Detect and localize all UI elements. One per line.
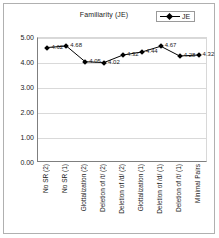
x-axis-tick-label: Deletion of /t/ (2) (98, 164, 108, 238)
data-point-label: 4.68 (70, 42, 82, 48)
x-axis-tick-text: No SR (1) (60, 164, 70, 193)
x-axis-tick-text: Minimal Pairs (193, 164, 203, 203)
x-axis-tick-text: Deletion of /t/ (2) (98, 164, 108, 212)
x-axis-labels: No SR (2)No SR (1)Glottalization (2)Dele… (37, 164, 207, 238)
data-point-label: 4.44 (146, 48, 158, 54)
x-axis-tick-text: Deletion of /d/ (2) (117, 164, 127, 214)
data-point-label: 4.32 (203, 51, 215, 57)
x-axis-tick-label: No SR (1) (60, 164, 70, 238)
x-axis-tick-text: Glottalization (2) (79, 164, 89, 211)
data-point-label: 4.32 (127, 51, 139, 57)
y-axis-tick-label: 3.00 (6, 84, 34, 91)
x-axis-tick-label: No SR (2) (41, 164, 51, 238)
gridline (38, 63, 206, 64)
x-axis-tick-label: Minimal Pairs (193, 164, 203, 238)
x-axis-tick-text: Deletion of /d/ (1) (155, 164, 165, 214)
x-axis-tick-text: Glottalization (1) (136, 164, 146, 211)
y-axis-tick-label: 5.00 (6, 34, 34, 41)
y-axis-labels: 5.004.003.002.001.000.00 (4, 37, 34, 162)
data-point-label: 4.62 (51, 44, 63, 50)
y-axis-tick-label: 0.00 (6, 159, 34, 166)
x-axis-tick-label: Deletion of /d/ (1) (155, 164, 165, 238)
chart-title: Familiarity (JE) (44, 11, 164, 18)
chart-legend: JE (156, 11, 195, 22)
gridline (38, 38, 206, 39)
x-axis-tick-text: Deletion of /t/ (1) (174, 164, 184, 212)
x-axis-tick-label: Deletion of /d/ (2) (117, 164, 127, 238)
legend-marker-icon (160, 13, 180, 20)
data-point-label: 4.28 (184, 52, 196, 58)
x-axis-tick-label: Glottalization (2) (79, 164, 89, 238)
gridline (38, 138, 206, 139)
legend-label: JE (182, 13, 190, 20)
data-point-label: 4.05 (89, 58, 101, 64)
data-point-label: 4.67 (165, 42, 177, 48)
y-axis-tick-label: 1.00 (6, 134, 34, 141)
gridline (38, 88, 206, 89)
plot-area: 4.624.684.054.024.324.444.674.284.32 (37, 37, 207, 162)
y-axis-tick-label: 2.00 (6, 109, 34, 116)
chart-container: Familiarity (JE) JE 5.004.003.002.001.00… (3, 3, 215, 234)
gridline (38, 113, 206, 114)
x-axis-tick-label: Glottalization (1) (136, 164, 146, 238)
y-axis-tick-label: 4.00 (6, 59, 34, 66)
x-axis-tick-label: Deletion of /t/ (1) (174, 164, 184, 238)
data-point-label: 4.02 (108, 59, 120, 65)
x-axis-tick-text: No SR (2) (41, 164, 51, 193)
